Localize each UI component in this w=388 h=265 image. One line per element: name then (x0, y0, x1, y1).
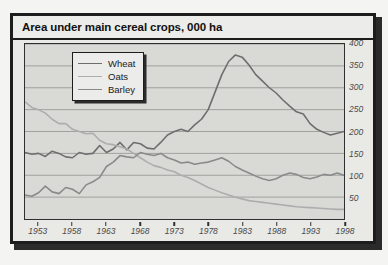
y-axis-tick-label: 250 (349, 104, 363, 114)
legend-label: Barley (108, 84, 135, 95)
x-axis-tick-label: 1978 (199, 226, 218, 236)
chart-figure: Area under main cereal crops, 000 ha 400… (10, 13, 376, 244)
chart-legend: WheatOatsBarley (72, 52, 144, 101)
x-axis-tick-label: 1983 (233, 226, 252, 236)
legend-label: Wheat (108, 58, 135, 69)
legend-label: Oats (108, 71, 128, 82)
x-axis-tick-label: 1998 (336, 226, 355, 236)
y-axis-tick-label: 300 (349, 82, 363, 92)
legend-item-oats[interactable]: Oats (78, 70, 135, 83)
y-axis-tick-label: 350 (349, 60, 363, 70)
y-axis-tick-label: 400 (349, 38, 363, 48)
x-axis-tick-label: 1958 (62, 226, 81, 236)
plot-wrapper: 40035030025020015010050 1953195819631968… (13, 40, 373, 241)
page-title: Area under main cereal crops, 000 ha (13, 21, 222, 33)
legend-swatch-icon (78, 89, 102, 90)
legend-item-wheat[interactable]: Wheat (78, 57, 135, 70)
legend-swatch-icon (78, 63, 102, 64)
x-axis-tick-label: 1993 (301, 226, 320, 236)
series-line-barley (25, 153, 344, 197)
series-line-oats (25, 102, 344, 210)
x-axis-tick-label: 1963 (96, 226, 115, 236)
chart-title-bar: Area under main cereal crops, 000 ha (13, 16, 373, 40)
y-axis: 40035030025020015010050 (349, 43, 379, 220)
y-axis-tick-label: 50 (349, 193, 358, 203)
y-axis-tick-label: 150 (349, 149, 363, 159)
y-axis-tick-label: 200 (349, 127, 363, 137)
y-axis-tick-label: 100 (349, 171, 363, 181)
x-axis-tick-label: 1973 (165, 226, 184, 236)
legend-swatch-icon (78, 76, 102, 77)
x-axis-tick-label: 1988 (267, 226, 286, 236)
x-axis-tick-label: 1968 (131, 226, 150, 236)
x-axis-tick-label: 1953 (28, 226, 47, 236)
x-axis: 1953195819631968197319781983198819931998 (24, 222, 345, 240)
legend-item-barley[interactable]: Barley (78, 83, 135, 96)
